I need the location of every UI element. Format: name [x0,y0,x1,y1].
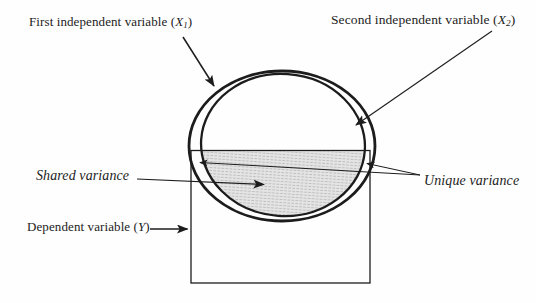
unique-variance-label: Unique variance [424,173,519,189]
x1-arrow [183,37,214,86]
x2-arrow [356,31,492,125]
dependent-variable-label: Dependent variable (Y) [27,220,150,235]
x2-label-suffix: ) [511,12,516,27]
x2-label-prefix: Second independent variable ( [331,12,498,27]
diagram-canvas [0,0,536,303]
x1-label-prefix: First independent variable ( [29,14,175,29]
venn-regression-figure: First independent variable (X1) Second i… [0,0,536,303]
second-independent-variable-label: Second independent variable (X2) [331,12,515,28]
shared-variance-label: Shared variance [36,168,129,184]
x2-symbol: X [498,12,506,27]
x1-label-suffix: ) [188,14,192,29]
y-label-prefix: Dependent variable ( [27,219,138,234]
y-label-suffix: ) [145,219,149,234]
first-independent-variable-label: First independent variable (X1) [29,15,192,30]
x1-symbol: X [175,14,183,29]
